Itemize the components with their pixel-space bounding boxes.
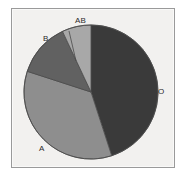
figure-frame: O A B AB — [11, 8, 175, 168]
pie-chart-screenshot: O A B AB — [0, 0, 186, 178]
pie-chart — [12, 9, 176, 169]
pie-label-A: A — [39, 145, 45, 153]
plot-area: O A B AB — [12, 9, 176, 169]
pie-label-B: B — [43, 35, 49, 43]
pie-label-AB: AB — [75, 17, 86, 25]
pie-label-O: O — [158, 88, 164, 96]
